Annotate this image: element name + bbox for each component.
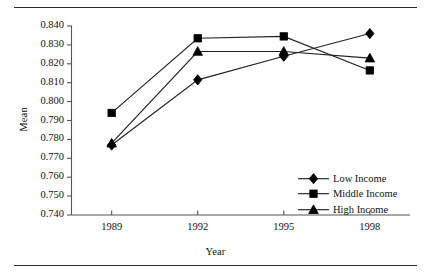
y-tick-label: 0.760 (18, 170, 64, 181)
line-chart: Mean 0.8400.8300.8200.8100.8000.7900.780… (0, 10, 431, 265)
y-tick-label: 0.770 (18, 151, 64, 162)
legend-item: Middle Income (297, 186, 397, 201)
bottom-horizontal-rule (14, 265, 417, 266)
y-tick-label: 0.790 (18, 114, 64, 125)
legend-item: High Income (297, 202, 397, 217)
legend-item: Low Income (297, 171, 397, 186)
x-tick-label: 1995 (259, 221, 309, 232)
y-tick-label: 0.830 (18, 38, 64, 49)
y-tick-label: 0.840 (18, 19, 64, 30)
chart-legend: Low IncomeMiddle IncomeHigh Income (297, 171, 397, 217)
clipped-caption-fragment (18, 0, 198, 4)
series-group (107, 28, 375, 150)
triangle-marker-icon (297, 202, 330, 217)
x-tick-label: 1992 (173, 221, 223, 232)
legend-label: Low Income (330, 171, 386, 186)
y-tick-label: 0.820 (18, 57, 64, 68)
x-tick-label: 1989 (87, 221, 137, 232)
top-horizontal-rule (14, 7, 417, 8)
y-tick-label: 0.740 (18, 208, 64, 219)
legend-label: High Income (330, 202, 388, 217)
y-tick-label: 0.750 (18, 189, 64, 200)
x-axis-title: Year (0, 246, 431, 257)
legend-label: Middle Income (330, 186, 397, 201)
figure-panel: Mean 0.8400.8300.8200.8100.8000.7900.780… (0, 0, 431, 273)
y-tick-label: 0.810 (18, 76, 64, 87)
x-tick-label: 1998 (345, 221, 395, 232)
square-marker-icon (297, 186, 330, 201)
y-tick-label: 0.780 (18, 132, 64, 143)
y-tick-label: 0.800 (18, 95, 64, 106)
diamond-marker-icon (297, 171, 330, 186)
